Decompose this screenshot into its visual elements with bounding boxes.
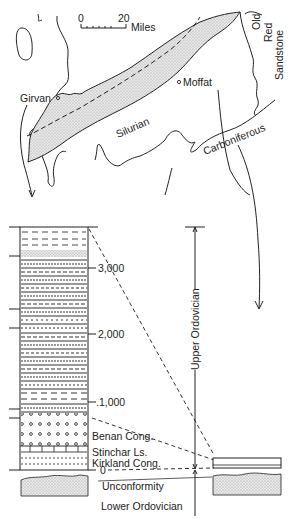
tick-1000: .1,000 xyxy=(96,396,125,408)
region-old-red-3: Sandstone xyxy=(273,30,285,80)
girvan-column: 3,000 2,000 .1,000 0 Benan Cong. Stincha… xyxy=(9,227,161,496)
unit-benan: Benan Cong. xyxy=(92,430,153,442)
scale-bar: 0 20 Miles xyxy=(78,12,156,33)
unconformity-label: Unconformity xyxy=(102,480,165,492)
region-carboniferous: Carboniferous xyxy=(201,121,267,157)
upper-ordovician-label: Upper Ordovician xyxy=(189,288,201,370)
island-outline xyxy=(16,28,32,60)
moffat-column xyxy=(213,458,281,495)
region-silurian: Silurian xyxy=(114,115,151,140)
geologic-diagram: 0 20 Miles Girvan Moffat Silurian Carbon… xyxy=(0,0,293,522)
girvan-basement xyxy=(21,475,88,496)
scale-start: 0 xyxy=(78,12,84,24)
upper-ordovician-bracket: Upper Ordovician xyxy=(185,227,205,516)
tick-2000: 2,000 xyxy=(98,328,124,340)
place-girvan: Girvan xyxy=(20,92,51,104)
tick-3000: 3,000 xyxy=(98,262,124,274)
unit-kirkland: Kirkland Cong. xyxy=(92,457,161,469)
region-old-red-1: Old xyxy=(250,14,262,31)
lower-ordovician-label: Lower Ordovician xyxy=(101,500,183,512)
place-moffat: Moffat xyxy=(183,76,212,88)
moffat-section-arrow xyxy=(238,145,260,308)
scale-unit: Miles xyxy=(131,21,156,33)
scale-end: 20 xyxy=(118,12,130,24)
